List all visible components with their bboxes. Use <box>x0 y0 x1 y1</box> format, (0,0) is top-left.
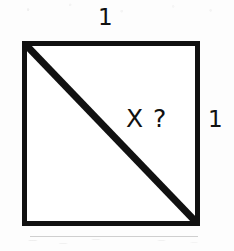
diagonal-length-label: X ? <box>126 106 167 131</box>
right-side-length-label: 1 <box>208 108 223 131</box>
diagram-canvas: 1 1 X ? <box>0 0 234 251</box>
geometry-figure <box>0 0 234 251</box>
top-side-length-label: 1 <box>98 6 113 29</box>
